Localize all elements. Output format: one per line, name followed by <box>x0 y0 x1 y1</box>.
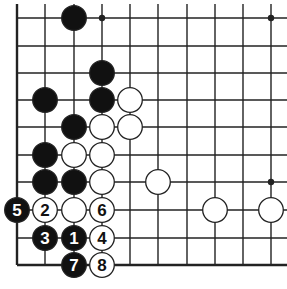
black-stone-7: 7 <box>62 253 87 278</box>
move-number: 2 <box>40 201 49 220</box>
black-stone <box>33 170 58 195</box>
white-stone <box>62 198 87 223</box>
white-stone <box>203 198 228 223</box>
black-stone <box>90 61 115 86</box>
white-stone <box>146 170 171 195</box>
black-stone-3: 3 <box>33 226 58 251</box>
black-stone <box>90 88 115 113</box>
star-point <box>268 179 274 185</box>
move-number: 5 <box>12 201 21 220</box>
star-point <box>268 15 274 21</box>
black-stone <box>62 115 87 140</box>
move-number: 3 <box>40 229 49 248</box>
white-stone <box>259 198 284 223</box>
black-stone-1: 1 <box>62 226 87 251</box>
go-board: 52631478 <box>0 0 287 289</box>
board-grid <box>17 4 287 265</box>
white-stone-4: 4 <box>90 226 115 251</box>
move-number: 7 <box>69 256 78 275</box>
white-stone <box>90 115 115 140</box>
black-stone <box>33 143 58 168</box>
white-stone <box>118 88 143 113</box>
white-stone <box>118 115 143 140</box>
white-stone <box>90 143 115 168</box>
white-stone-2: 2 <box>33 198 58 223</box>
move-number: 1 <box>69 229 78 248</box>
black-stone <box>62 170 87 195</box>
black-stone-5: 5 <box>5 198 30 223</box>
move-number: 6 <box>97 201 106 220</box>
star-point <box>99 15 105 21</box>
black-stone <box>62 6 87 31</box>
white-stone <box>62 143 87 168</box>
move-number: 4 <box>97 229 107 248</box>
white-stone-6: 6 <box>90 198 115 223</box>
white-stone <box>90 170 115 195</box>
black-stone <box>33 88 58 113</box>
white-stone-8: 8 <box>90 253 115 278</box>
move-number: 8 <box>97 256 106 275</box>
